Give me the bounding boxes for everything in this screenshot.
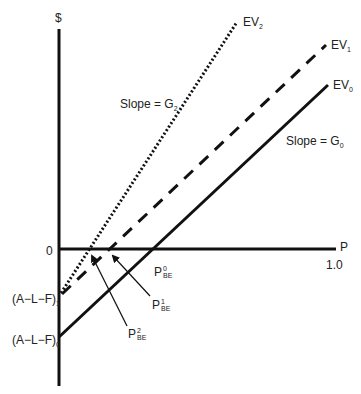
intercept-afl1: (A−L−F)1 bbox=[12, 293, 60, 307]
ev2-label: EV2 bbox=[243, 16, 263, 30]
breakeven-p0-label: P0BE bbox=[154, 266, 172, 279]
ev1-label: EV1 bbox=[331, 39, 351, 53]
p2-arrow bbox=[92, 256, 127, 326]
x-axis-label: P bbox=[340, 241, 348, 253]
intercept-afl0: (A−L−F)0 bbox=[12, 334, 60, 348]
breakeven-p1-label: P1BE bbox=[152, 299, 170, 312]
ev1-line bbox=[62, 45, 326, 294]
x-end-tick: 1.0 bbox=[326, 259, 343, 271]
origin-label: 0 bbox=[46, 245, 53, 257]
slope-g0-label: Slope = G0 bbox=[286, 135, 344, 149]
slope-g2-label: Slope = G2 bbox=[120, 98, 178, 112]
ev0-line bbox=[59, 85, 328, 337]
breakeven-p2-label: P2BE bbox=[128, 328, 146, 341]
ev0-label: EV0 bbox=[333, 79, 353, 93]
y-axis-label: $ bbox=[55, 12, 62, 24]
p1-arrow bbox=[113, 256, 150, 296]
